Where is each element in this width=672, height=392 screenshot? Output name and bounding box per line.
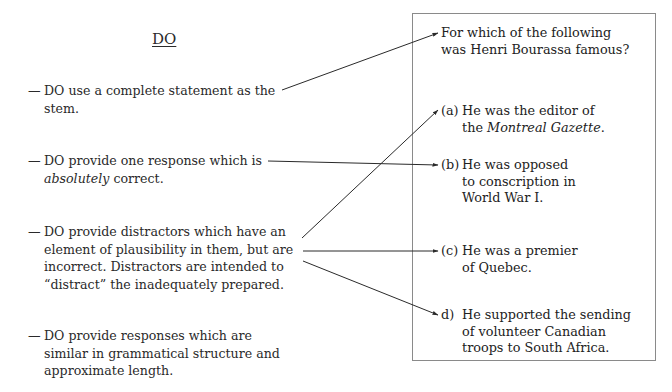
arrow-to-option-b [268,161,438,165]
connector-arrows [0,0,672,392]
arrow-to-question [282,33,438,90]
arrow-to-option-d [303,261,438,315]
arrow-to-option-a [302,110,438,238]
